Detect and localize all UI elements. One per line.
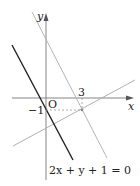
- x-tick-label: 3: [78, 86, 85, 99]
- coordinate-diagram: y x O 3 −1 2x + y + 1 = 0: [0, 0, 140, 186]
- y-tick-label: −1: [28, 104, 44, 117]
- x-axis-label: x: [128, 100, 135, 113]
- origin-label: O: [48, 98, 57, 111]
- y-axis-arrow-icon: [44, 13, 49, 21]
- equation-label: 2x + y + 1 = 0: [49, 164, 131, 177]
- y-axis-label: y: [36, 10, 44, 23]
- given-line: [12, 45, 73, 160]
- parallel-line: [32, 12, 107, 158]
- point-marker: [81, 109, 84, 112]
